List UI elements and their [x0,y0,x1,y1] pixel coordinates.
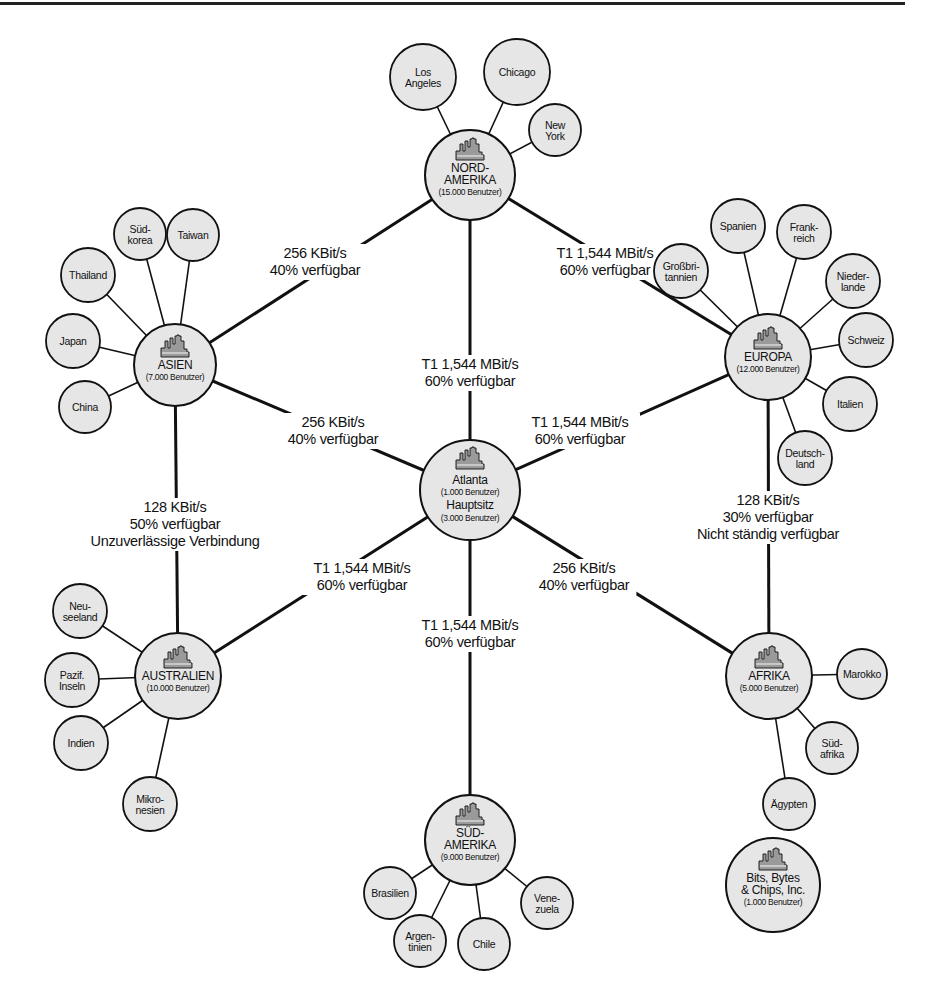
link-label-text: T1 1,544 MBit/s [421,617,518,633]
leaf-node[interactable]: Deutsch-land [778,431,832,485]
link-label-nordamerika-atlanta: T1 1,544 MBit/s60% verfügbar [421,356,518,389]
leaf-node[interactable]: Italien [823,377,877,431]
leaf-label: korea [128,234,153,246]
leaf-label: Marokko [843,668,882,680]
hub-users-label: (7.000 Benutzer) [146,372,205,382]
leaf-label: York [545,130,565,142]
leaf-node[interactable]: Japan [46,314,100,368]
hub-name-label: EUROPA [744,350,792,364]
leaf-node[interactable]: Großbri-tannien [654,244,708,298]
leaf-label: Thailand [69,269,107,281]
hub-name-label: ASIEN [158,358,193,372]
link-label-text: T1 1,544 MBit/s [531,414,628,430]
leaf-label: reich [793,232,815,244]
link-label-text: 60% verfügbar [560,262,651,278]
hub-users-label: (9.000 Benutzer) [441,852,500,862]
leaf-label: Indien [68,737,95,749]
leaf-node[interactable]: Pazif.Inseln [45,653,99,707]
hub-name-label: Atlanta [452,473,488,487]
hub-users-label: (10.000 Benutzer) [147,683,210,693]
link-label-text: 50% verfügbar [130,516,221,532]
leaf-label: Japan [59,335,87,347]
leaf-node[interactable]: Indien [54,716,108,770]
leaf-node[interactable]: Chicago [484,39,550,105]
link-label-text: 60% verfügbar [317,577,408,593]
link-label-atlanta-suedamerika: T1 1,544 MBit/s60% verfügbar [421,617,518,650]
leaf-label: tannien [665,271,698,283]
link-label-text: T1 1,544 MBit/s [556,245,653,261]
leaf-label: Chicago [499,66,536,78]
leaf-label: Brasilien [371,887,409,899]
hub-node-europa[interactable]: EUROPA(12.000 Benutzer) [725,314,811,400]
leaf-label: nesien [135,804,165,816]
hub-users-label: (15.000 Benutzer) [439,187,502,197]
leaf-label: Ägypten [771,798,808,810]
link-label-text: 256 KBit/s [301,414,364,430]
hub-users-label: (5.000 Benutzer) [740,683,799,693]
leaf-node[interactable]: Schweiz [839,313,893,367]
leaf-node[interactable]: Marokko [837,649,887,699]
leaf-label: Angeles [405,77,441,89]
link-label-nordamerika-europa: T1 1,544 MBit/s60% verfügbar [556,245,653,278]
link-label-text: 60% verfügbar [535,431,626,447]
hub-name-label: AMERIKA [444,838,496,852]
hub-node-suedamerika[interactable]: SÜD-AMERIKA(9.000 Benutzer) [425,795,515,885]
link-label-text: 40% verfügbar [270,262,361,278]
leaf-label: China [72,401,98,413]
link-label-text: 60% verfügbar [425,373,516,389]
leaf-node[interactable]: LosAngeles [390,44,456,110]
link-label-text: 60% verfügbar [425,634,516,650]
hub-node-bitsbytes[interactable]: Bits, Bytes& Chips, Inc.(1.000 Benutzer) [726,838,820,932]
hub-node-australien[interactable]: AUSTRALIEN(10.000 Benutzer) [135,633,221,719]
leaf-node[interactable]: Nieder-lande [826,254,880,308]
leaf-label: lande [841,281,866,293]
network-diagram: NORD-AMERIKA(15.000 Benutzer)ASIEN(7.000… [0,0,938,997]
link-label-text: 256 KBit/s [283,245,346,261]
hub-name-label: AUSTRALIEN [142,669,214,683]
link-label-text: Unzuverlässige Verbindung [90,533,259,549]
link-label-text: 40% verfügbar [288,431,379,447]
link-label-text: 256 KBit/s [552,560,615,576]
leaf-node[interactable]: Thailand [61,248,115,302]
leaf-label: Inseln [59,680,86,692]
leaf-label: tinien [408,941,432,953]
hub-users-label: (1.000 Benutzer) [441,487,500,497]
leaf-label: Italien [837,398,863,410]
leaf-node[interactable]: Vene-zuela [521,877,573,929]
hub-node-atlanta[interactable]: Atlanta(1.000 Benutzer)Hauptsitz(3.000 B… [420,440,520,540]
link-label-text: Nicht ständig verfügbar [697,526,840,542]
leaf-node[interactable]: Süd-korea [114,208,166,260]
hub-users-label: (1.000 Benutzer) [744,897,803,907]
leaf-label: zuela [535,903,559,915]
link-label-text: 128 KBit/s [736,492,799,508]
leaf-node[interactable]: Neu-seeland [53,584,107,638]
link-label-text: T1 1,544 MBit/s [313,560,410,576]
leaf-node[interactable]: Mikro-nesien [123,777,177,831]
leaf-label: Schweiz [848,334,885,346]
leaf-label: seeland [63,611,98,623]
hub-subusers-label: (3.000 Benutzer) [441,513,500,523]
leaf-node[interactable]: Chile [458,918,510,970]
leaf-node[interactable]: Argen-tinien [394,915,446,967]
leaf-node[interactable]: China [59,381,111,433]
leaf-node[interactable]: NewYork [529,104,581,156]
leaf-node[interactable]: Spanien [711,199,765,253]
hub-node-asien[interactable]: ASIEN(7.000 Benutzer) [134,324,216,406]
hub-node-afrika[interactable]: AFRIKA(5.000 Benutzer) [726,633,812,719]
hub-node-nordamerika[interactable]: NORD-AMERIKA(15.000 Benutzer) [425,130,515,220]
leaf-label: Chile [473,938,496,950]
leaf-node[interactable]: Frank-reich [777,205,831,259]
hub-name-label: AMERIKA [444,173,496,187]
hub-name-label: AFRIKA [748,669,790,683]
leaf-node[interactable]: Brasilien [364,867,416,919]
hub-subname-label: Hauptsitz [446,498,494,512]
link-label-atlanta-australien: T1 1,544 MBit/s60% verfügbar [313,560,410,593]
link-label-text: T1 1,544 MBit/s [421,356,518,372]
leaf-label: Taiwan [178,229,209,241]
leaf-node[interactable]: Ägypten [763,778,815,830]
hub-name-label: & Chips, Inc. [741,883,805,897]
leaf-node[interactable]: Taiwan [167,209,219,261]
leaf-label: Spanien [720,220,757,232]
leaf-label: land [796,458,815,470]
leaf-node[interactable]: Süd-afrika [806,722,858,774]
